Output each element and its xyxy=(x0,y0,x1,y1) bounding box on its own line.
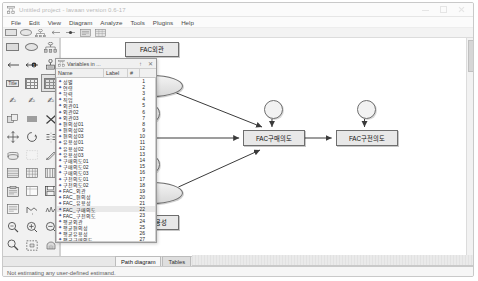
tab-tables[interactable]: Tables xyxy=(162,256,191,266)
regression-path-tool[interactable] xyxy=(48,28,63,37)
variable-number: 5 xyxy=(142,102,145,108)
duplicate-objects[interactable] xyxy=(3,110,22,128)
variable-number: 24 xyxy=(139,218,145,224)
degrees-of-freedom[interactable] xyxy=(22,200,41,218)
zoom-in[interactable] xyxy=(22,218,41,236)
column-header-label[interactable]: Label xyxy=(104,69,128,77)
variable-number: 21 xyxy=(139,200,145,206)
variables-icon xyxy=(58,60,65,67)
variable-bullet-icon: ✦ xyxy=(58,170,62,174)
variable-bullet-icon: ✦ xyxy=(58,122,62,126)
variable-number: 17 xyxy=(139,176,145,182)
menu-file[interactable]: File xyxy=(7,17,25,28)
draw-indicators[interactable] xyxy=(41,38,60,56)
column-header-filler xyxy=(140,69,156,77)
variable-bullet-icon: ✦ xyxy=(58,231,62,235)
move-parameter[interactable] xyxy=(3,128,22,146)
maximize-icon[interactable] xyxy=(440,6,447,13)
preserve-symmetries[interactable] xyxy=(3,164,22,182)
canvas-vertical-scrollbar[interactable] xyxy=(466,38,473,256)
list-variables[interactable] xyxy=(22,74,41,92)
path-latent-top-to-purchase xyxy=(176,93,262,127)
select-one-object[interactable]: ✍ xyxy=(22,92,41,110)
variable-bullet-icon: ✦ xyxy=(58,189,62,193)
menu-analyze[interactable]: Analyze xyxy=(96,17,126,28)
error-node-wom[interactable] xyxy=(357,100,376,119)
covariance-tool[interactable] xyxy=(63,28,78,37)
drag-properties[interactable] xyxy=(22,164,41,182)
variable-number: 16 xyxy=(139,169,145,175)
variable-number: 8 xyxy=(142,121,145,127)
menu-help[interactable]: Help xyxy=(177,17,198,28)
column-header-number[interactable]: # xyxy=(128,69,140,77)
fit-to-page[interactable] xyxy=(22,236,41,254)
draw-double-headed-path[interactable]: 1 xyxy=(22,56,41,74)
draw-observed-variable[interactable] xyxy=(3,38,22,56)
menu-diagram[interactable]: Diagram xyxy=(65,17,96,28)
variable-number: 6 xyxy=(142,109,145,115)
variable-name: 평균구매의도 xyxy=(63,236,107,242)
shape-change[interactable] xyxy=(3,146,22,164)
pin-icon[interactable]: ↑ xyxy=(139,61,142,67)
zoom-in-region[interactable] xyxy=(3,218,22,236)
node-fac-purchase[interactable]: FAC구매의도 xyxy=(243,130,305,146)
variable-number: 11 xyxy=(140,139,145,145)
indicator-tool[interactable] xyxy=(33,28,48,37)
minimize-icon[interactable] xyxy=(422,6,429,13)
variable-bullet-icon: ✦ xyxy=(58,177,62,181)
magnify[interactable] xyxy=(3,236,22,254)
menu-edit[interactable]: Edit xyxy=(25,17,44,28)
menu-tools[interactable]: Tools xyxy=(126,17,148,28)
variable-bullet-icon: ✦ xyxy=(58,219,62,223)
toolbar-strip xyxy=(3,28,473,38)
variable-bullet-icon: ✦ xyxy=(58,79,62,83)
close-icon[interactable] xyxy=(458,6,465,13)
variable-bullet-icon: ✦ xyxy=(58,152,62,156)
menu-view[interactable]: View xyxy=(44,17,65,28)
variable-bullet-icon: ✦ xyxy=(58,116,62,120)
variable-number: 18 xyxy=(139,182,145,188)
select-all-objects[interactable]: ✍ xyxy=(3,92,22,110)
variable-bullet-icon: ✦ xyxy=(58,134,62,138)
insert-title[interactable]: Title xyxy=(3,74,22,92)
variable-number: 25 xyxy=(139,224,145,230)
variable-row[interactable]: ✦평균구매의도27 xyxy=(57,236,155,242)
move-objects[interactable] xyxy=(22,110,41,128)
variables-window-controls: ↑ ✕ xyxy=(139,61,153,67)
variable-number: 14 xyxy=(139,157,145,163)
draw-single-headed-path[interactable] xyxy=(3,56,22,74)
variable-bullet-icon: ✦ xyxy=(58,201,62,205)
variable-number: 26 xyxy=(139,230,145,236)
resize-diagram[interactable] xyxy=(22,146,41,164)
title-bar: Untitled project - lavaan version 0.6-17 xyxy=(3,3,473,17)
variable-number: 1 xyxy=(142,78,145,84)
observed-variable-tool[interactable] xyxy=(3,28,18,37)
status-message: Not estimating any user-defined estimand… xyxy=(7,270,116,276)
variables-window-titlebar: Variables in ... ↑ ✕ xyxy=(56,59,156,69)
variables-window[interactable]: Variables in ... ↑ ✕ Name Label # ✦성별1✦연… xyxy=(55,58,157,243)
variables-list[interactable]: ✦성별1✦연령2✦학력3✦직업4✦외관015✦외관026✦외관037✦편의성01… xyxy=(56,78,156,242)
menu-plugins[interactable]: Plugins xyxy=(149,17,177,28)
variable-number: 20 xyxy=(139,194,145,200)
variable-bullet-icon: ✦ xyxy=(58,183,62,187)
latent-variable-tool[interactable] xyxy=(18,28,33,37)
draw-latent-variable[interactable] xyxy=(22,38,41,56)
scrollbar-thumb[interactable] xyxy=(468,40,474,72)
variable-bullet-icon: ✦ xyxy=(58,164,62,168)
matrix-tool[interactable] xyxy=(93,28,108,37)
title-tool[interactable] xyxy=(78,28,93,37)
node-fac-exterior[interactable]: FAC외관 xyxy=(125,42,179,57)
variable-bullet-icon: ✦ xyxy=(58,158,62,162)
application-window: Untitled project - lavaan version 0.6-17… xyxy=(2,2,474,277)
rotate-indicators[interactable] xyxy=(22,128,41,146)
text-output[interactable] xyxy=(3,200,22,218)
analysis-properties[interactable] xyxy=(3,182,22,200)
error-node-purchase[interactable] xyxy=(264,100,283,119)
close-icon[interactable]: ✕ xyxy=(148,61,153,67)
column-header-name[interactable]: Name xyxy=(56,69,104,77)
variable-bullet-icon: ✦ xyxy=(58,213,62,217)
node-fac-wom[interactable]: FAC구전의도 xyxy=(336,130,398,146)
variable-number: 19 xyxy=(139,188,145,194)
data-file[interactable] xyxy=(22,182,41,200)
tab-path-diagram[interactable]: Path diagram xyxy=(115,256,161,266)
